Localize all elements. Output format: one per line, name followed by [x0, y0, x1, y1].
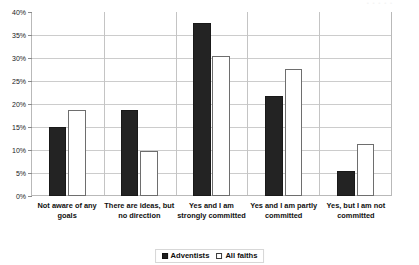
bar-adventists [337, 171, 355, 196]
y-axis-tick-labels: 40%35%30%25%20%15%10%5%0% [0, 0, 28, 200]
x-axis-category-labels: Not aware of any goalsThere are ideas, b… [31, 199, 392, 243]
bars-layer [31, 12, 392, 196]
bar-all-faiths [140, 151, 158, 196]
y-axis-tick-label: 0% [16, 193, 26, 200]
y-axis-tick-label: 40% [12, 9, 26, 16]
bar-all-faiths [285, 69, 303, 196]
bar-adventists [49, 127, 67, 196]
y-axis-tick-label: 30% [12, 55, 26, 62]
x-axis-category-label: Yes and I am strongly committed [175, 201, 247, 220]
bar-chart: • • • • • 40%35%30%25%20%15%10%5%0% Not … [0, 0, 419, 265]
bar-all-faiths [68, 110, 86, 196]
bar-adventists [193, 23, 211, 196]
y-axis-tick-label: 15% [12, 124, 26, 131]
x-axis-category-label: Yes, but I am not committed [320, 201, 392, 220]
hollow-square-icon [216, 253, 222, 259]
chart-legend: AdventistsAll faiths [155, 249, 265, 263]
bar-all-faiths [212, 56, 230, 196]
x-axis-category-label: Yes and I am partly committed [248, 201, 320, 220]
y-axis-tick-label: 20% [12, 101, 26, 108]
legend-item: All faiths [216, 251, 257, 260]
legend-item: Adventists [162, 251, 210, 260]
y-axis-tick-label: 5% [16, 170, 26, 177]
y-axis-tick-label: 10% [12, 147, 26, 154]
bar-all-faiths [357, 144, 375, 196]
legend-item-label: All faiths [225, 251, 257, 260]
x-axis-category-label: Not aware of any goals [31, 201, 103, 220]
y-axis-tick-label: 35% [12, 32, 26, 39]
x-axis-category-label: There are ideas, but no direction [103, 201, 175, 220]
legend-item-label: Adventists [171, 251, 210, 260]
plot-wrapper: 40%35%30%25%20%15%10%5%0% Not aware of a… [0, 0, 419, 200]
y-axis-tick-label: 25% [12, 78, 26, 85]
filled-square-icon [162, 253, 168, 259]
bar-adventists [265, 96, 283, 196]
y-axis-tick-mark [28, 196, 32, 197]
bar-adventists [121, 110, 139, 196]
